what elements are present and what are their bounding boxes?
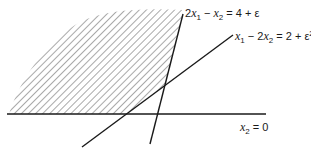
label-op: − — [201, 7, 214, 19]
steep-line-label: 2x1 − x2 = 4 + ε — [185, 7, 259, 22]
label-rhs: = 0 — [250, 121, 269, 133]
hatched-feasible-region — [9, 9, 183, 114]
label-rhs: = 2 + ε — [273, 30, 309, 42]
shallow-line-label: x1 − 2x2 = 2 + ε2 — [235, 30, 311, 45]
label-op: − 2 — [245, 30, 264, 42]
label-rhs: = 4 + ε — [223, 7, 259, 19]
axis-line-label: x2 = 0 — [240, 121, 268, 136]
label-sup: 2 — [309, 29, 311, 38]
